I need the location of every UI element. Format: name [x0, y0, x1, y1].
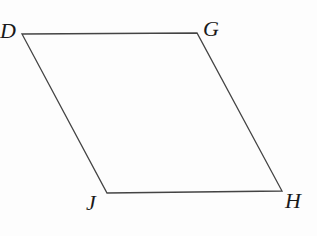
parallelogram-dghj: [22, 33, 282, 193]
vertex-label-h: H: [285, 190, 301, 212]
vertex-label-g: G: [203, 18, 219, 40]
vertex-label-d: D: [0, 20, 16, 42]
vertex-label-j: J: [86, 192, 96, 214]
parallelogram-diagram: [0, 0, 317, 236]
